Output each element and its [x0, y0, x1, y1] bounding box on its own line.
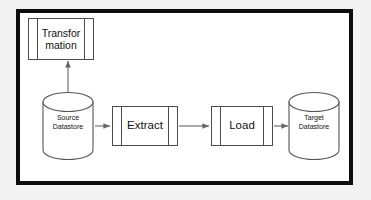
node-extract-label: Extract: [127, 119, 163, 132]
process-bar-left: [220, 107, 221, 145]
process-bar-left: [121, 107, 122, 145]
process-bar-left: [37, 19, 38, 59]
process-bar-right: [168, 107, 169, 145]
process-bar-right: [84, 19, 85, 59]
cylinder-shape: [42, 92, 94, 160]
node-extract[interactable]: Extract: [112, 106, 178, 146]
node-load[interactable]: Load: [211, 106, 273, 146]
node-source-datastore[interactable]: Source Datastore: [42, 92, 94, 160]
node-target-datastore[interactable]: Target Datastore: [288, 92, 340, 160]
node-transformation-label: Transfor mation: [42, 27, 81, 51]
diagram-root: Transfor mation Source Datastore Extract…: [0, 0, 371, 200]
node-load-label: Load: [229, 119, 255, 132]
cylinder-shape: [288, 92, 340, 160]
node-transformation[interactable]: Transfor mation: [28, 18, 94, 60]
process-bar-right: [263, 107, 264, 145]
